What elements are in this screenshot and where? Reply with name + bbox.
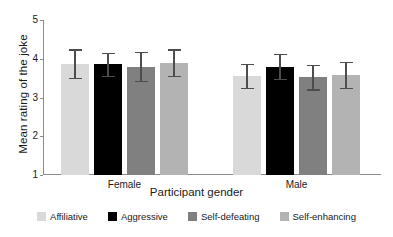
x-axis-title: Participant gender bbox=[0, 186, 393, 198]
error-bar-line bbox=[279, 54, 280, 80]
y-axis-line bbox=[43, 20, 44, 175]
error-bar-cap-upper bbox=[102, 53, 115, 54]
error-bar-cap-upper bbox=[241, 64, 254, 65]
bar bbox=[299, 77, 327, 175]
y-axis-tick-mark bbox=[40, 20, 44, 21]
error-bar-cap-lower bbox=[102, 76, 115, 77]
error-bar-line bbox=[246, 64, 247, 88]
error-bar-cap-lower bbox=[340, 88, 353, 89]
legend-swatch-icon bbox=[108, 212, 117, 221]
chart-legend: AffiliativeAggressiveSelf-defeatingSelf-… bbox=[0, 211, 393, 222]
y-axis-tick-label: 2 bbox=[25, 131, 38, 141]
y-axis-tick-label: 5 bbox=[25, 15, 38, 25]
y-axis-tick-mark bbox=[40, 175, 44, 176]
bar bbox=[266, 67, 294, 176]
y-axis-tick-label: 1 bbox=[25, 170, 38, 180]
legend-swatch-icon bbox=[280, 212, 289, 221]
error-bar-cap-upper bbox=[340, 62, 353, 63]
legend-label: Aggressive bbox=[121, 211, 168, 222]
error-bar-line bbox=[140, 52, 141, 81]
bar bbox=[127, 67, 155, 176]
bar bbox=[160, 63, 188, 175]
error-bar-cap-lower bbox=[168, 76, 181, 77]
bar bbox=[61, 64, 89, 175]
bar bbox=[332, 75, 360, 175]
error-bar-cap-upper bbox=[274, 54, 287, 55]
legend-item: Aggressive bbox=[108, 211, 168, 222]
bar bbox=[94, 64, 122, 175]
error-bar-line bbox=[173, 49, 174, 75]
bar bbox=[233, 76, 261, 175]
y-axis-tick-mark bbox=[40, 136, 44, 137]
error-bar-cap-lower bbox=[241, 88, 254, 89]
error-bar-cap-lower bbox=[274, 79, 287, 80]
legend-swatch-icon bbox=[37, 212, 46, 221]
legend-item: Affiliative bbox=[37, 211, 88, 222]
plot-area: 12345 FemaleMale bbox=[43, 20, 381, 175]
error-bar-cap-upper bbox=[69, 49, 82, 50]
y-axis-tick-mark bbox=[40, 59, 44, 60]
legend-item: Self-defeating bbox=[188, 211, 260, 222]
error-bar-cap-lower bbox=[135, 81, 148, 82]
legend-label: Affiliative bbox=[50, 211, 88, 222]
error-bar-cap-upper bbox=[307, 65, 320, 66]
error-bar-line bbox=[312, 65, 313, 90]
error-bar-line bbox=[74, 49, 75, 78]
error-bar-line bbox=[107, 53, 108, 76]
y-axis-tick-label: 3 bbox=[25, 93, 38, 103]
error-bar-cap-lower bbox=[69, 78, 82, 79]
error-bar-line bbox=[345, 62, 346, 88]
legend-item: Self-enhancing bbox=[280, 211, 356, 222]
legend-swatch-icon bbox=[188, 212, 197, 221]
error-bar-cap-upper bbox=[168, 49, 181, 50]
legend-label: Self-defeating bbox=[201, 211, 260, 222]
bar-chart-figure: Mean rating of the joke 12345 FemaleMale… bbox=[0, 0, 393, 237]
y-axis-tick-mark bbox=[40, 98, 44, 99]
y-axis-tick-label: 4 bbox=[25, 54, 38, 64]
error-bar-cap-upper bbox=[135, 52, 148, 53]
error-bar-cap-lower bbox=[307, 89, 320, 90]
legend-label: Self-enhancing bbox=[293, 211, 356, 222]
